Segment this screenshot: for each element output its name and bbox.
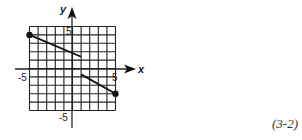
segment-1-start-dot-icon [26,32,32,38]
x-tick-max: 5 [112,72,118,83]
segment-2-end-dot-icon [112,91,118,97]
y-axis-title: y [59,3,67,15]
y-tick-min: -5 [59,112,68,123]
y-tick-max: 5 [66,26,72,37]
coordinate-plane: x y -5 5 5 -5 [0,0,160,140]
axes: x y -5 5 5 -5 [15,3,145,128]
x-axis-title: x [137,63,145,75]
x-tick-min: -5 [18,72,27,83]
figure-label: (3-2) [272,116,298,132]
